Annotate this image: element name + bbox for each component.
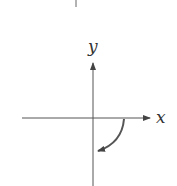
y-axis-label: y bbox=[87, 36, 98, 56]
coordinate-diagram: y x bbox=[0, 0, 177, 186]
x-axis-label: x bbox=[156, 107, 166, 127]
rotation-arrow bbox=[98, 119, 124, 151]
